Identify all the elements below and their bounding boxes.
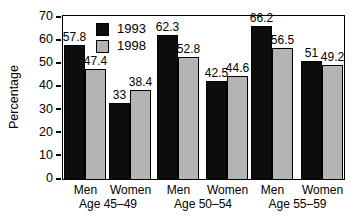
value-label-1998: 44.6 xyxy=(221,62,255,75)
bar-1998-men-age-50-54 xyxy=(178,57,199,179)
x-label-women-group1: Women xyxy=(110,184,151,197)
y-tick-label: 60 xyxy=(31,33,53,46)
y-tick-mark xyxy=(56,62,61,64)
value-label-1998: 47.4 xyxy=(79,55,113,68)
y-tick-mark xyxy=(56,108,61,110)
y-tick-label: 70 xyxy=(31,10,53,23)
legend-swatch-1993 xyxy=(96,23,109,36)
y-tick-mark xyxy=(56,16,61,18)
plot-area: 1993 1998 57.847.43338.462.352.842.544.6… xyxy=(62,15,345,180)
bar-1993-women-age-55-59 xyxy=(301,61,322,179)
value-label-1998: 56.5 xyxy=(266,34,300,47)
value-label-1998: 38.4 xyxy=(124,76,158,89)
y-tick-label: 30 xyxy=(31,103,53,116)
value-label-1993: 57.8 xyxy=(58,31,92,44)
y-tick-mark xyxy=(56,178,61,180)
y-tick-mark xyxy=(56,39,61,41)
legend-label-1998: 1998 xyxy=(117,39,146,53)
y-tick-label: 50 xyxy=(31,56,53,69)
x-label-women-group2: Women xyxy=(207,184,248,197)
value-label-1993: 66.2 xyxy=(245,12,279,25)
y-tick-mark xyxy=(56,85,61,87)
value-label-1998: 49.2 xyxy=(316,51,350,64)
y-tick-mark xyxy=(56,131,61,133)
bar-1993-men-age-50-54 xyxy=(157,35,178,179)
bar-1998-women-age-55-59 xyxy=(322,65,343,179)
legend-entry-1993: 1993 xyxy=(96,22,146,36)
x-label-women-group3: Women xyxy=(302,184,343,197)
bar-1998-men-age-55-59 xyxy=(272,48,293,179)
bar-1993-women-age-50-54 xyxy=(206,81,227,179)
y-tick-label: 20 xyxy=(31,126,53,139)
legend: 1993 1998 xyxy=(96,22,146,53)
y-tick-label: 40 xyxy=(31,79,53,92)
bar-1998-men-age-45-49 xyxy=(85,69,106,179)
y-tick-label: 10 xyxy=(31,149,53,162)
x-group-label-3: Age 55–59 xyxy=(268,198,326,211)
legend-swatch-1998 xyxy=(96,40,109,53)
bar-chart: Percentage 1993 1998 57.847.43338.462.35… xyxy=(0,0,364,222)
value-label-1993: 62.3 xyxy=(151,21,185,34)
bar-1998-women-age-45-49 xyxy=(130,90,151,179)
x-group-label-2: Age 50–54 xyxy=(174,198,232,211)
y-axis-title: Percentage xyxy=(7,65,21,129)
value-label-1998: 52.8 xyxy=(172,43,206,56)
y-tick-label: 0 xyxy=(31,172,53,185)
x-label-men-group1: Men xyxy=(74,184,97,197)
x-label-men-group2: Men xyxy=(167,184,190,197)
bar-1993-men-age-55-59 xyxy=(251,26,272,179)
bar-1993-women-age-45-49 xyxy=(109,103,130,179)
legend-label-1993: 1993 xyxy=(117,22,146,36)
y-tick-mark xyxy=(56,154,61,156)
legend-entry-1998: 1998 xyxy=(96,39,146,53)
bar-1998-women-age-50-54 xyxy=(227,76,248,179)
x-group-label-1: Age 45–49 xyxy=(79,198,137,211)
x-label-men-group3: Men xyxy=(261,184,284,197)
